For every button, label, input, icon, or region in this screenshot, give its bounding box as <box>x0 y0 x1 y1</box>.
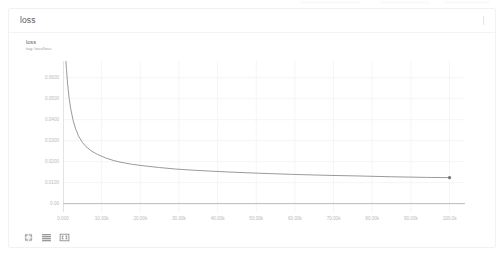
x-tick-label: 70.00k <box>327 215 341 222</box>
chart-toolbar <box>23 232 70 243</box>
y-tick-label: 0.0100 <box>45 180 59 186</box>
y-tick-label: 0.0300 <box>45 138 59 144</box>
x-tick-label: 90.00k <box>404 215 418 222</box>
y-tick-label: 0.0600 <box>45 75 59 81</box>
x-tick-label: 30.00k <box>172 215 186 222</box>
card-header: loss <box>9 9 495 33</box>
series-name-label: loss <box>26 39 36 46</box>
scalar-chart-panel: loss loss tag: loss/loss 0.000.01000.020… <box>0 0 504 255</box>
list-lines-icon[interactable] <box>41 232 52 243</box>
end-point-marker[interactable] <box>448 176 451 179</box>
y-tick-label: 0.00 <box>50 201 59 207</box>
plot-area[interactable]: 0.000.01000.02000.03000.04000.05000.0600 <box>63 61 465 212</box>
x-tick-label: 80.00k <box>365 215 379 222</box>
x-tick-label: 20.00k <box>133 215 147 222</box>
chart-block: loss tag: loss/loss 0.000.01000.02000.03… <box>9 33 495 248</box>
fit-frame-icon[interactable] <box>59 232 70 243</box>
y-tick-label: 0.0500 <box>45 96 59 102</box>
top-ghost-a <box>300 1 360 4</box>
grid-horizontal <box>63 78 465 204</box>
card-title: loss <box>20 15 36 26</box>
top-ghost-c <box>444 1 490 4</box>
y-tick-label: 0.0400 <box>45 117 59 123</box>
x-tick-label: 10.00k <box>95 215 109 222</box>
plot-svg <box>63 61 465 212</box>
chart-card: loss loss tag: loss/loss 0.000.01000.020… <box>8 8 496 248</box>
x-tick-label: 100.0k <box>443 215 457 222</box>
grid-vertical <box>63 61 450 212</box>
series-tag-label: tag: loss/loss <box>26 46 51 52</box>
x-tick-label: 50.00k <box>249 215 263 222</box>
top-ghost-b <box>380 1 430 4</box>
vertical-handle-icon[interactable] <box>480 15 487 26</box>
y-tick-label: 0.0200 <box>45 159 59 165</box>
x-tick-label: 0.000 <box>57 215 69 222</box>
x-tick-label: 60.00k <box>288 215 302 222</box>
window-top-strip <box>0 0 504 8</box>
x-tick-label: 40.00k <box>211 215 225 222</box>
x-axis-ticks: 0.00010.00k20.00k30.00k40.00k50.00k60.00… <box>63 215 465 225</box>
expand-arrows-icon[interactable] <box>23 232 34 243</box>
